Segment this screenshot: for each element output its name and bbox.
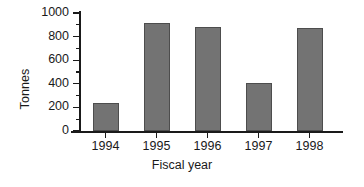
y-axis-minor-tick [76, 119, 81, 120]
y-axis-tick [73, 60, 80, 61]
x-axis-tick [309, 132, 310, 138]
y-axis-minor-tick [76, 48, 81, 49]
y-axis-tick-label: 400 [9, 76, 69, 90]
bar [144, 23, 170, 131]
y-axis-minor-tick [76, 95, 81, 96]
plot-area: 02004006008001000 [80, 13, 335, 131]
y-axis-tick-label: 800 [9, 29, 69, 43]
x-axis-tick [156, 132, 157, 138]
bar [195, 27, 221, 131]
x-axis-ticks: 19941995199619971998 [80, 132, 335, 158]
y-axis-tick-label: 0 [9, 123, 69, 137]
bar [297, 28, 323, 131]
x-axis-title: Fiscal year [0, 158, 364, 172]
y-axis-tick [73, 83, 80, 84]
y-axis-minor-tick [76, 24, 81, 25]
x-axis-tick [258, 132, 259, 138]
x-axis-tick-label: 1998 [280, 139, 340, 153]
bar-chart: Tonnes 02004006008001000 199419951996199… [0, 0, 364, 187]
y-axis-tick [73, 107, 80, 108]
y-axis-tick-label: 200 [9, 99, 69, 113]
y-axis-minor-tick [76, 71, 81, 72]
y-axis-tick [73, 36, 80, 37]
y-axis-tick-label: 1000 [9, 5, 69, 19]
bar [246, 83, 272, 131]
y-axis-tick-label: 600 [9, 52, 69, 66]
x-axis-tick [105, 132, 106, 138]
bar [93, 103, 119, 131]
y-axis-tick [73, 130, 80, 131]
y-axis-tick [73, 12, 80, 13]
x-axis-tick [207, 132, 208, 138]
